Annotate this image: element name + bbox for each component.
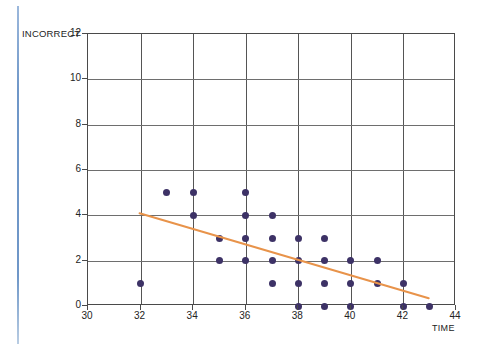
data-point <box>269 257 276 264</box>
x-axis-title: TIME <box>432 323 455 333</box>
data-point <box>295 303 302 310</box>
data-point <box>347 280 354 287</box>
data-point <box>374 257 381 264</box>
data-point <box>242 257 249 264</box>
ytick-12 <box>82 33 87 34</box>
gridline-y-8 <box>88 125 454 126</box>
data-point <box>400 280 407 287</box>
data-point <box>137 280 144 287</box>
xtick-label-32: 32 <box>125 310 155 321</box>
gridline-x-34 <box>193 34 194 304</box>
data-point <box>216 257 223 264</box>
data-point <box>374 280 381 287</box>
data-point <box>321 303 328 310</box>
data-point <box>295 280 302 287</box>
data-point <box>190 212 197 219</box>
xtick-label-38: 38 <box>282 310 312 321</box>
data-point <box>163 189 170 196</box>
data-point <box>400 303 407 310</box>
ytick-4 <box>82 214 87 215</box>
data-point <box>269 280 276 287</box>
ytick-2 <box>82 260 87 261</box>
xtick-label-40: 40 <box>335 310 365 321</box>
xtick-label-34: 34 <box>177 310 207 321</box>
data-point <box>242 235 249 242</box>
ytick-8 <box>82 124 87 125</box>
ytick-label-0: 0 <box>55 299 81 310</box>
data-point <box>347 303 354 310</box>
ytick-6 <box>82 169 87 170</box>
gridline-y-6 <box>88 170 454 171</box>
data-point <box>242 189 249 196</box>
data-point <box>295 235 302 242</box>
scatter-chart: INCORRECT TIME 3032343638404244 02468101… <box>0 0 482 350</box>
data-point <box>216 235 223 242</box>
data-point <box>269 235 276 242</box>
ytick-10 <box>82 78 87 79</box>
ytick-label-2: 2 <box>55 254 81 265</box>
ytick-label-4: 4 <box>55 208 81 219</box>
data-point <box>269 212 276 219</box>
gridline-y-10 <box>88 79 454 80</box>
xtick-label-44: 44 <box>440 310 470 321</box>
ytick-label-12: 12 <box>55 27 81 38</box>
ytick-0 <box>82 305 87 306</box>
data-point <box>295 257 302 264</box>
ytick-label-8: 8 <box>55 118 81 129</box>
data-point <box>347 257 354 264</box>
ytick-label-10: 10 <box>55 72 81 83</box>
xtick-label-36: 36 <box>230 310 260 321</box>
xtick-label-30: 30 <box>72 310 102 321</box>
ytick-label-6: 6 <box>55 163 81 174</box>
data-point <box>190 189 197 196</box>
data-point <box>321 280 328 287</box>
plot-area <box>87 33 455 305</box>
gridline-x-42 <box>403 34 404 304</box>
data-point <box>242 212 249 219</box>
gridline-x-32 <box>141 34 142 304</box>
data-point <box>321 235 328 242</box>
xtick-label-42: 42 <box>387 310 417 321</box>
data-point <box>426 303 433 310</box>
data-point <box>321 257 328 264</box>
